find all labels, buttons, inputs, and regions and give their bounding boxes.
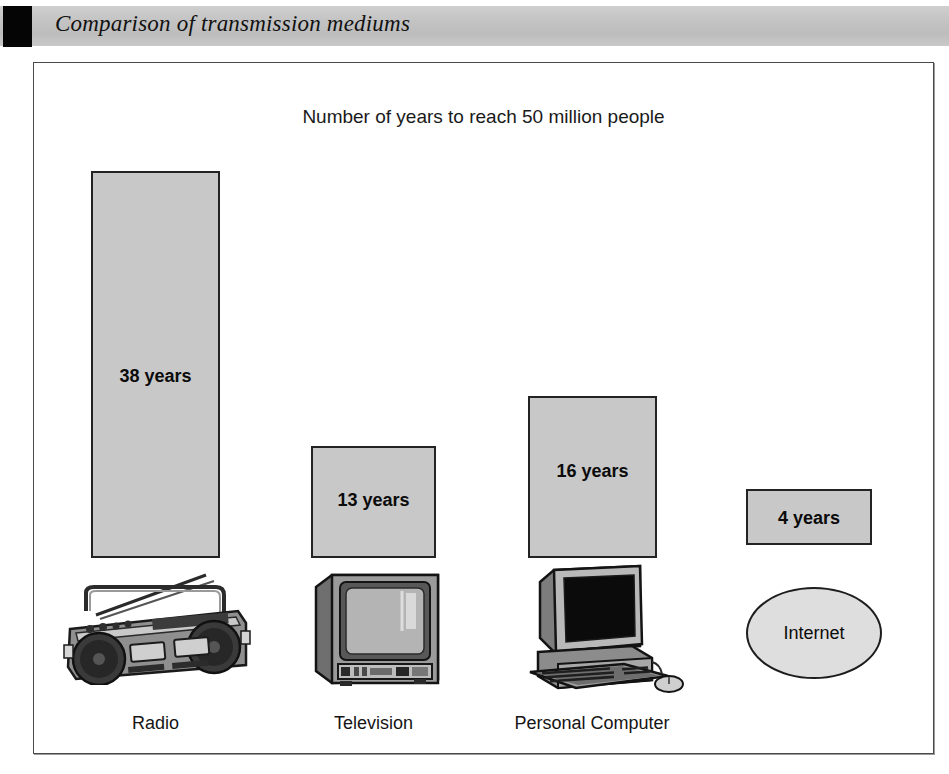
chart-title: Number of years to reach 50 million peop…: [34, 106, 933, 128]
bar-internet: 4 years: [746, 489, 872, 545]
bar-television: 13 years: [311, 446, 436, 558]
header-accent-block: [3, 6, 32, 47]
chart-frame: Number of years to reach 50 million peop…: [33, 62, 934, 754]
bar-label-personal-computer: 16 years: [530, 461, 655, 482]
category-label-radio: Radio: [91, 713, 220, 734]
category-label-television: Television: [311, 713, 436, 734]
internet-label: Internet: [748, 623, 880, 644]
internet-ellipse: Internet: [746, 587, 882, 679]
radio-icon: [56, 567, 256, 685]
bar-label-internet: 4 years: [748, 508, 870, 529]
page-title: Comparison of transmission mediums: [55, 11, 410, 37]
television-icon: [310, 567, 446, 691]
bar-label-television: 13 years: [313, 490, 434, 511]
bar-radio: 38 years: [91, 171, 220, 558]
bar-personal-computer: 16 years: [528, 396, 657, 558]
category-label-personal-computer: Personal Computer: [501, 713, 683, 734]
computer-icon: [512, 560, 687, 694]
bar-label-radio: 38 years: [93, 366, 218, 387]
